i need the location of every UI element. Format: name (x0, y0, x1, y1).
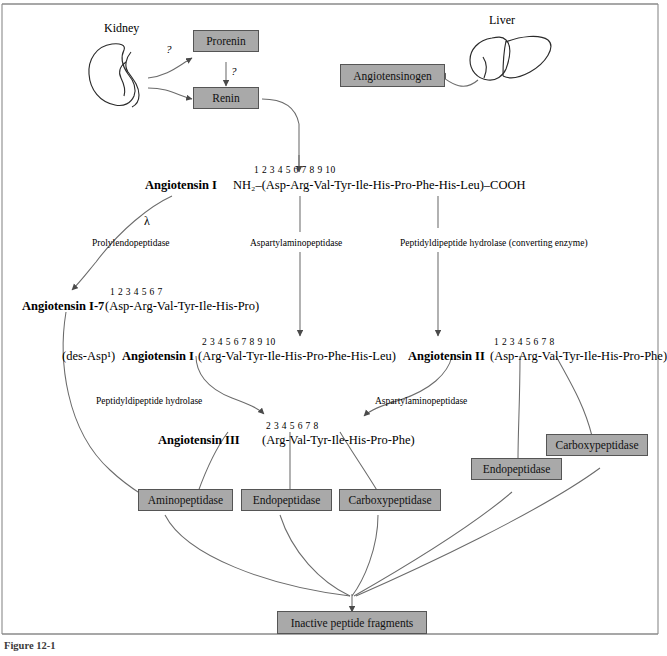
box-angiotensinogen[interactable]: Angiotensinogen (340, 64, 445, 87)
question-mark-prorenin-renin: ? (231, 66, 237, 77)
angiotensin-II-numbers: 1 2 3 4 5 6 7 8 (494, 338, 555, 348)
box-renin[interactable]: Renin (193, 87, 259, 109)
line-renin-down (262, 99, 299, 168)
des-asp-angiotensin-I-sequence: (Arg-Val-Tyr-Ile-His-Pro-Phe-His-Leu) (198, 350, 396, 363)
box-carboxypeptidase-center[interactable]: Carboxypeptidase (339, 489, 441, 511)
arrow-kidney-prorenin (148, 58, 192, 78)
angiotensin-III-numbers: 2 3 4 5 6 7 8 (266, 422, 319, 432)
angiotensin-I-sequence: NH₂–(Asp-Arg-Val-Tyr-Ile-His-Pro-Phe-His… (233, 179, 526, 192)
lambda-marker: λ (144, 215, 150, 227)
line-angII-endo (518, 356, 520, 460)
converge-endo (280, 515, 350, 596)
liver-label: Liver (489, 14, 515, 26)
liver-illustration (470, 36, 551, 80)
des-asp-prefix: (des-Asp¹) (62, 350, 115, 363)
angiotensin-I7-numbers: 1 2 3 4 5 6 7 (110, 288, 163, 298)
arrow-liver-angiotensinogen (440, 76, 478, 86)
enzyme-aspartylaminopeptidase-top: Aspartylaminopeptidase (250, 239, 342, 249)
box-endopeptidase-center[interactable]: Endopeptidase (241, 489, 332, 511)
enzyme-peptidyldipeptide-hydrolase: Peptidyldipeptide hydrolase (96, 397, 202, 407)
kidney-illustration (89, 44, 139, 107)
line-angII-carboxy (556, 356, 592, 436)
angiotensin-II-name: Angiotensin II (408, 350, 485, 363)
angiotensin-III-name: Angiotensin III (158, 434, 240, 447)
angiotensin-I7-sequence: (Asp-Arg-Val-Tyr-Ile-His-Pro) (105, 300, 259, 313)
converge-amino (165, 515, 350, 596)
kidney-label: Kidney (104, 22, 139, 34)
angiotensin-I-name: Angiotensin I (145, 179, 217, 192)
arrow-kidney-renin (148, 88, 192, 99)
box-aminopeptidase[interactable]: Aminopeptidase (138, 489, 233, 511)
des-asp-angiotensin-I-numbers: 2 3 4 5 6 7 8 9 10 (202, 338, 276, 348)
angiotensin-III-sequence: (Arg-Val-Tyr-Ile-His-Pro-Phe) (262, 434, 415, 447)
figure-caption: Figure 12-1 (4, 640, 55, 651)
box-inactive-peptide-fragments[interactable]: Inactive peptide fragments (277, 611, 427, 634)
arrow-desasp-to-angIII (196, 356, 264, 414)
angiotensin-I-numbers: 1 2 3 4 5 6 7 8 9 10 (254, 166, 336, 176)
pathway-arrows (63, 36, 600, 612)
box-carboxypeptidase-right[interactable]: Carboxypeptidase (546, 434, 648, 456)
des-asp-angiotensin-I-name: Angiotensin I (122, 350, 194, 363)
box-endopeptidase-right[interactable]: Endopeptidase (471, 458, 562, 480)
angiotensin-II-sequence: (Asp-Arg-Val-Tyr-Ile-His-Pro-Phe) (490, 350, 667, 363)
converge-carboxy-right (356, 468, 600, 596)
question-mark-kidney-prorenin: ? (166, 44, 172, 55)
box-prorenin[interactable]: Prorenin (193, 30, 259, 52)
enzyme-aspartylaminopeptidase-mid: Aspartylaminopeptidase (375, 397, 467, 407)
enzyme-prolylendopeptidase: Prolylendopeptidase (92, 239, 170, 249)
angiotensin-I7-name: Angiotensin I-7 (22, 300, 104, 313)
arrow-angII-to-angIII (364, 356, 452, 416)
enzyme-peptidyldipeptide-hydrolase-converting: Peptidyldipeptide hydrolase (converting … (400, 239, 588, 249)
